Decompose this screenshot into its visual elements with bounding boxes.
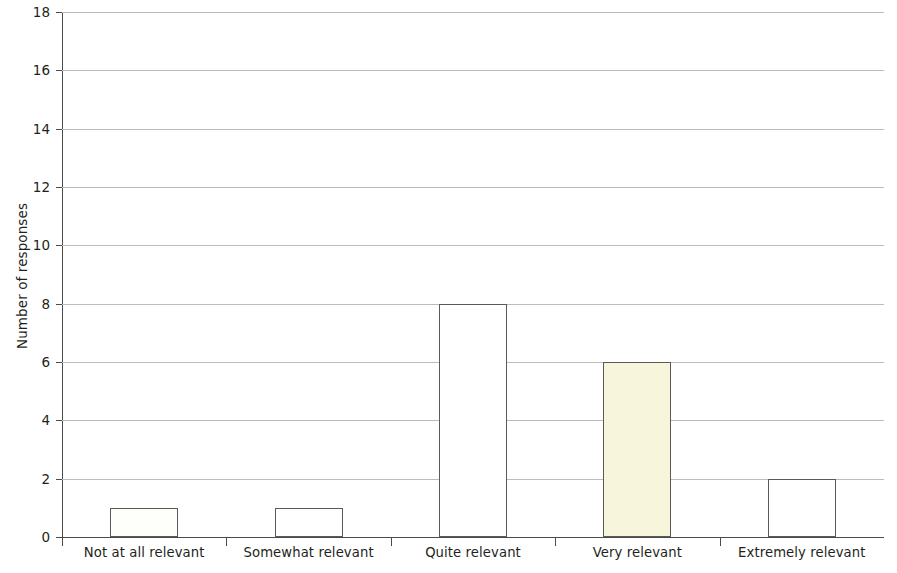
- y-axis-tick: [56, 12, 62, 13]
- bar: [768, 479, 836, 537]
- x-axis-tick-label: Somewhat relevant: [244, 545, 374, 560]
- gridline: [62, 187, 884, 188]
- x-axis-tick: [226, 538, 227, 546]
- bar: [439, 304, 507, 537]
- x-axis-baseline: [62, 537, 884, 538]
- bar: [603, 362, 671, 537]
- y-axis-tick-label: 16: [6, 62, 50, 78]
- y-axis-tick-label: 10: [6, 237, 50, 253]
- x-axis-tick-label: Extremely relevant: [738, 545, 865, 560]
- x-axis-tick-label: Quite relevant: [425, 545, 521, 560]
- y-axis-tick: [56, 479, 62, 480]
- bar: [275, 508, 343, 537]
- bar-chart: Number of responses 024681012141618 Not …: [0, 0, 897, 573]
- x-axis-tick-label: Not at all relevant: [84, 545, 205, 560]
- y-axis-tick: [56, 362, 62, 363]
- gridline: [62, 70, 884, 71]
- gridline: [62, 129, 884, 130]
- y-axis-tick: [56, 187, 62, 188]
- y-axis-tick-label: 18: [6, 4, 50, 20]
- y-axis-tick-label: 14: [6, 121, 50, 137]
- y-axis-tick: [56, 129, 62, 130]
- y-axis-tick: [56, 70, 62, 71]
- y-axis-tick-label: 8: [6, 296, 50, 312]
- y-axis-tick-labels: 024681012141618: [0, 0, 50, 573]
- y-axis-tick: [56, 245, 62, 246]
- plot-area: [62, 12, 884, 537]
- y-axis-tick-label: 0: [6, 529, 50, 545]
- x-axis-tick: [555, 538, 556, 546]
- x-axis-origin-tick: [62, 538, 63, 546]
- y-axis-tick-label: 6: [6, 354, 50, 370]
- bar: [110, 508, 178, 537]
- y-axis-tick-label: 12: [6, 179, 50, 195]
- y-axis-tick-label: 2: [6, 471, 50, 487]
- gridline: [62, 12, 884, 13]
- y-axis-tick: [56, 420, 62, 421]
- y-axis-tick: [56, 304, 62, 305]
- x-axis-tick: [720, 538, 721, 546]
- gridline: [62, 245, 884, 246]
- x-axis-tick: [391, 538, 392, 546]
- y-axis-tick-label: 4: [6, 412, 50, 428]
- x-axis-tick-label: Very relevant: [593, 545, 682, 560]
